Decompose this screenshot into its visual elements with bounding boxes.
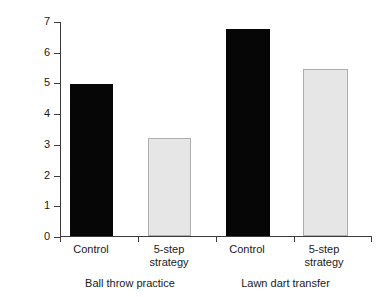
bar-control-lawn-dart — [226, 29, 270, 236]
x-tick-4 — [371, 237, 372, 242]
y-tick-3: 3 — [54, 145, 60, 146]
category-label-control-lawn-dart: Control — [208, 243, 286, 256]
bar-5step-lawn-dart — [303, 69, 348, 236]
bar-control-ball-throw — [70, 84, 113, 236]
category-label-5step-lawn-dart: 5-step strategy — [285, 243, 363, 269]
x-tick-0 — [60, 237, 61, 242]
category-label-control-ball-throw: Control — [52, 243, 130, 256]
y-tick-5: 5 — [54, 83, 60, 84]
y-tick-label-6: 6 — [44, 46, 50, 58]
bar-5step-ball-throw — [148, 138, 191, 236]
x-tick-3 — [294, 237, 295, 242]
y-tick-label-4: 4 — [44, 107, 50, 119]
y-tick-label-2: 2 — [44, 169, 50, 181]
y-tick-7: 7 — [54, 22, 60, 23]
y-tick-4: 4 — [54, 114, 60, 115]
y-tick-label-7: 7 — [44, 15, 50, 27]
y-tick-label-0: 0 — [44, 230, 50, 242]
group-label-ball-throw-practice: Ball throw practice — [52, 277, 208, 289]
group-label-lawn-dart-transfer: Lawn dart transfer — [208, 277, 363, 289]
plot-area: 7 6 5 4 3 2 1 0 — [60, 22, 372, 237]
bar-chart: Error (cm) 7 6 5 4 3 2 1 0 — [0, 0, 385, 297]
y-tick-label-5: 5 — [44, 76, 50, 88]
y-tick-label-3: 3 — [44, 138, 50, 150]
y-tick-6: 6 — [54, 53, 60, 54]
y-axis-line — [60, 22, 61, 238]
y-tick-2: 2 — [54, 176, 60, 177]
x-tick-1 — [138, 237, 139, 242]
y-tick-label-1: 1 — [44, 199, 50, 211]
category-label-5step-ball-throw: 5-step strategy — [130, 243, 208, 269]
y-tick-1: 1 — [54, 206, 60, 207]
x-tick-2 — [216, 237, 217, 242]
